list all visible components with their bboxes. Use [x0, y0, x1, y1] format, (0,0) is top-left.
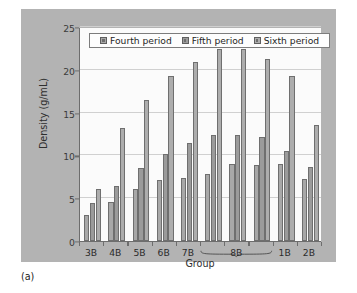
x-tick-label-4B-1: 4B	[109, 247, 121, 258]
bar-8B-fifth-period	[211, 135, 216, 241]
x-tick-mark-10	[321, 242, 322, 246]
bar-6B-sixth-period	[168, 76, 173, 241]
x-tick-label-6B-3: 6B	[158, 247, 170, 258]
y-tick-label-25: 25	[53, 23, 75, 34]
y-axis-label: Density (g/mL)	[38, 78, 49, 149]
bar-1B-fifth-period	[284, 151, 289, 241]
bar-7B-fourth-period	[181, 178, 186, 241]
bar-1B-sixth-period	[289, 76, 294, 241]
bar-2B-sixth-period	[314, 125, 319, 241]
legend-swatch-icon	[182, 37, 189, 44]
x-tick-label-5B-2: 5B	[133, 247, 145, 258]
y-tick-label-20: 20	[53, 65, 75, 76]
bar-5B-fifth-period	[138, 168, 143, 241]
bar-7B-sixth-period	[193, 62, 198, 241]
legend-swatch-icon	[254, 37, 261, 44]
bar-7B-fifth-period	[187, 143, 192, 241]
bar-2B-fourth-period	[302, 179, 307, 241]
y-axis-ticks: 0510152025	[47, 28, 75, 242]
y-tick-label-15: 15	[53, 108, 75, 119]
legend-entry-fourth-period: Fourth period	[100, 35, 172, 46]
bar-5B-sixth-period	[144, 100, 149, 241]
bar-5B-fourth-period	[133, 189, 138, 241]
gridline-25	[80, 26, 321, 27]
x-tick-label-1B-6: 1B	[279, 247, 291, 258]
bar-2B-fifth-period	[308, 167, 313, 241]
bar-3B-fifth-period	[90, 203, 95, 241]
x-tick-label-7B-4: 7B	[182, 247, 194, 258]
figure-container: 0510152025 Density (g/mL) Fourth periodF…	[0, 0, 357, 293]
bar-8B-fifth-period	[259, 137, 264, 241]
legend-swatch-icon	[100, 37, 107, 44]
chart-legend: Fourth periodFifth periodSixth period	[89, 33, 330, 48]
x-tick-label-3B-0: 3B	[85, 247, 97, 258]
legend-label: Fourth period	[110, 35, 172, 46]
chart-panel: 0510152025 Density (g/mL) Fourth periodF…	[21, 9, 336, 262]
y-tick-label-5: 5	[53, 194, 75, 205]
bar-8B-sixth-period	[265, 59, 270, 241]
bar-8B-fourth-period	[205, 174, 210, 241]
figure-caption: (a)	[21, 271, 34, 282]
x-tick-label-2B-7: 2B	[303, 247, 315, 258]
plot-area	[79, 28, 321, 242]
bar-8B-fourth-period	[254, 165, 259, 241]
legend-entry-sixth-period: Sixth period	[254, 35, 319, 46]
y-tick-label-10: 10	[53, 151, 75, 162]
legend-entry-fifth-period: Fifth period	[182, 35, 244, 46]
bar-3B-sixth-period	[96, 189, 101, 241]
bar-4B-sixth-period	[120, 128, 125, 241]
bar-8B-sixth-period	[217, 49, 222, 241]
bar-4B-fourth-period	[108, 202, 113, 241]
legend-label: Sixth period	[264, 35, 319, 46]
x-axis-label: Group	[79, 258, 321, 269]
bar-3B-fourth-period	[84, 215, 89, 241]
legend-label: Fifth period	[192, 35, 244, 46]
bar-8B-fifth-period	[235, 135, 240, 241]
bar-4B-fifth-period	[114, 186, 119, 241]
bar-6B-fourth-period	[157, 180, 162, 241]
bar-8B-sixth-period	[241, 49, 246, 241]
bars-layer	[80, 28, 321, 241]
y-tick-label-0: 0	[53, 237, 75, 248]
bar-8B-fourth-period	[229, 164, 234, 241]
bar-1B-fourth-period	[278, 164, 283, 241]
bar-6B-fifth-period	[163, 154, 168, 241]
x-tick-label-8B-5: 8B	[230, 247, 242, 258]
